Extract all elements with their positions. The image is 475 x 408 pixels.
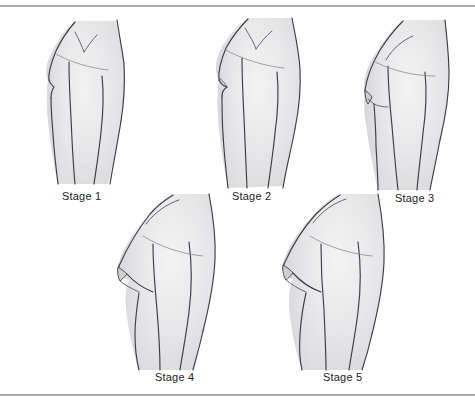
stage-5-label: Stage 5 — [323, 371, 362, 383]
figure-stage-2: Stage 2 — [188, 16, 333, 191]
figure-stage-4: Stage 4 — [103, 192, 238, 372]
figure-stage-3: Stage 3 — [345, 18, 475, 193]
bottom-divider-rule — [0, 394, 475, 396]
stage-3-torso — [364, 20, 449, 190]
stage-4-torso — [117, 194, 215, 370]
stage-1-label: Stage 1 — [62, 190, 101, 202]
stage-5-torso — [282, 194, 384, 370]
stage-4-label: Stage 4 — [155, 371, 194, 383]
figure-stage-1: Stage 1 — [18, 18, 158, 190]
top-divider-rule — [0, 5, 475, 7]
figure-stage-5: Stage 5 — [268, 192, 408, 372]
stage-2-torso — [216, 18, 300, 188]
stage-1-torso — [46, 20, 125, 184]
tanner-stages-illustration: Stage 1 — [0, 0, 475, 408]
